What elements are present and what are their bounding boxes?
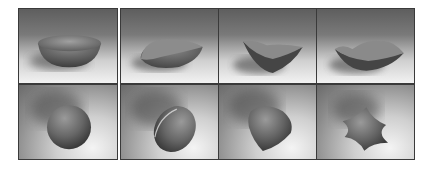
panel-group-reference — [18, 8, 118, 160]
panel-bowl-round — [19, 9, 117, 83]
bowl-round-image — [19, 9, 117, 83]
panel-sphere — [19, 85, 117, 159]
panel-bowl-triangular — [219, 9, 316, 83]
panel-group-deformations — [120, 8, 415, 160]
ellipsoid-image — [121, 85, 218, 159]
panel-ellipsoid — [121, 85, 218, 159]
panel-rounded-tetrahedron — [219, 85, 316, 159]
bowl-tilted-image — [121, 9, 218, 83]
rounded-tetrahedron-image — [219, 85, 316, 159]
four-lobed-blob-image — [317, 85, 414, 159]
panel-bowl-tilted — [121, 9, 218, 83]
sphere-image — [19, 85, 117, 159]
bowl-triangular-image — [219, 9, 316, 83]
panel-bowl-wavy — [317, 9, 414, 83]
panel-four-lobed-blob — [317, 85, 414, 159]
bowl-wavy-image — [317, 9, 414, 83]
